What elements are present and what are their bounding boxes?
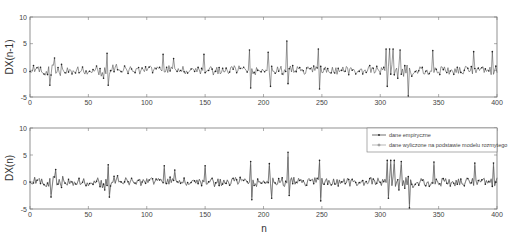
y-tick-label: 10	[19, 14, 27, 21]
legend-entry-model: dane wyliczone na podstawie modelu rozmy…	[389, 142, 507, 148]
y-tick-label: 5	[23, 152, 27, 159]
y-tick-label: 0	[23, 67, 27, 74]
x-tick-label: 0	[28, 99, 32, 106]
x-tick-label: 150	[199, 211, 211, 218]
x-tick-label: 50	[84, 211, 92, 218]
x-tick-label: 300	[374, 211, 386, 218]
y-tick-label: 0	[23, 179, 27, 186]
legend-entry-empirical: dane empiryczne	[389, 132, 431, 138]
x-tick-label: 250	[316, 211, 328, 218]
x-tick-label: 150	[199, 99, 211, 106]
legend: dane empiryczne dane wyliczone na podsta…	[367, 128, 507, 152]
bottom-ylabel: DX(n)	[4, 155, 15, 181]
x-tick-label: 0	[28, 211, 32, 218]
bottom-xlabel: n	[261, 223, 267, 234]
y-tick-label: -5	[21, 94, 27, 101]
y-tick-label: -5	[21, 206, 27, 213]
x-tick-label: 250	[316, 99, 328, 106]
x-tick-label: 350	[433, 211, 445, 218]
x-tick-label: 400	[491, 211, 503, 218]
x-tick-label: 100	[141, 211, 153, 218]
bottom-subplot: 050100150200250300350400 -50510 DX(n) n …	[4, 125, 507, 235]
y-tick-label: 5	[23, 40, 27, 47]
legend-box	[367, 128, 497, 152]
top-ylabel: DX(n-1)	[4, 39, 15, 74]
x-tick-label: 400	[491, 99, 503, 106]
x-tick-label: 100	[141, 99, 153, 106]
x-tick-label: 200	[258, 99, 270, 106]
top-subplot: 050100150200250300350400 -50510 DX(n-1)	[4, 14, 503, 107]
figure: 050100150200250300350400 -50510 DX(n-1) …	[0, 0, 515, 240]
top-axes-frame	[30, 17, 497, 97]
legend-empirical-marker	[378, 134, 380, 136]
x-tick-label: 300	[374, 99, 386, 106]
y-tick-label: 10	[19, 125, 27, 132]
x-tick-label: 50	[84, 99, 92, 106]
x-tick-label: 200	[258, 211, 270, 218]
x-tick-label: 350	[433, 99, 445, 106]
